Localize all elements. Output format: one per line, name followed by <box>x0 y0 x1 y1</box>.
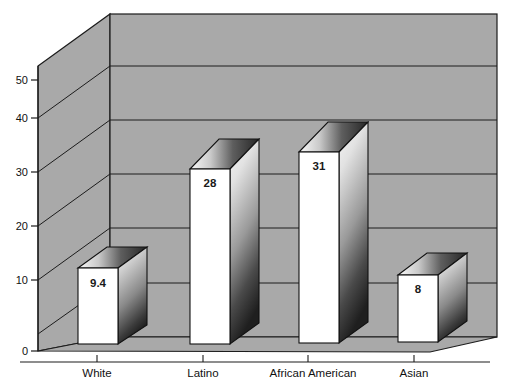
bar-white[interactable]: 9.4 <box>78 247 147 344</box>
y-tick-label-10: 10 <box>16 274 28 286</box>
x-tick-label-latino: Latino <box>187 367 218 379</box>
x-tick-labels: White Latino African American Asian <box>82 367 428 379</box>
y-tick-label-30: 30 <box>16 166 28 178</box>
bar-value-white: 9.4 <box>90 277 107 289</box>
y-tick-label-20: 20 <box>16 220 28 232</box>
bar-front-face <box>190 169 230 344</box>
x-tick-label-african-american: African American <box>270 367 357 379</box>
y-tick-labels: 50 40 30 20 10 0 <box>16 74 28 357</box>
bar-value-asian: 8 <box>415 283 422 295</box>
y-tick-label-50: 50 <box>16 74 28 86</box>
y-axis <box>31 66 38 351</box>
y-tick-label-0: 0 <box>22 345 28 357</box>
bar-value-latino: 28 <box>204 177 217 189</box>
chart-container: 50 40 30 20 10 0 9.4 28 <box>0 0 510 388</box>
bar-african-american[interactable]: 31 <box>299 122 368 343</box>
x-tick-label-white: White <box>82 367 111 379</box>
x-tick-label-asian: Asian <box>400 367 429 379</box>
bar-side-face <box>339 122 368 343</box>
y-tick-label-40: 40 <box>16 112 28 124</box>
plot-area-3d: 50 40 30 20 10 0 9.4 28 <box>16 14 497 379</box>
bar-latino[interactable]: 28 <box>190 139 259 344</box>
bar-chart-3d: 50 40 30 20 10 0 9.4 28 <box>0 0 510 388</box>
bar-value-african-american: 31 <box>313 160 326 172</box>
bar-side-face <box>230 139 259 344</box>
bar-front-face <box>299 152 339 343</box>
x-axis <box>20 355 490 362</box>
